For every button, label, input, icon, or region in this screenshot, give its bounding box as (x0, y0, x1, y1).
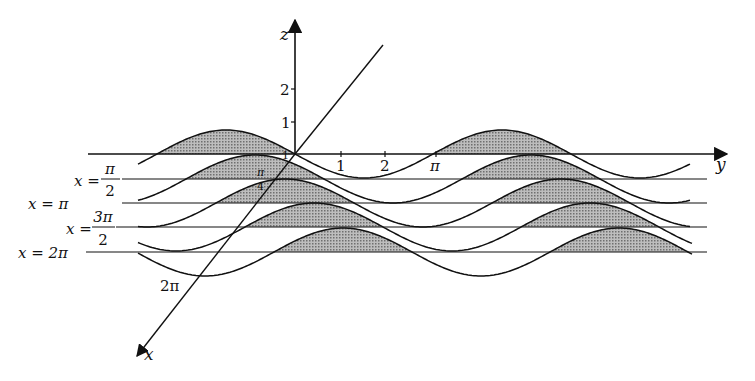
shaded-hump (521, 203, 659, 227)
y-tick-label-pi: π (429, 157, 441, 175)
sine-surface-diagram: y z 2 1 x 2π 1 2 π 1 π 4 x = π 2 x = π x… (0, 0, 755, 381)
x-axis (137, 154, 295, 356)
y-tick-label-2: 2 (380, 157, 390, 175)
origin-mark-4: 4 (257, 180, 264, 193)
svg-text:2: 2 (105, 182, 115, 200)
shaded-hump (157, 130, 295, 154)
slice-label-2pi: x = 2π (18, 244, 69, 262)
svg-text:3π: 3π (93, 208, 114, 226)
svg-text:2: 2 (98, 231, 108, 249)
svg-text:x =: x = (74, 172, 100, 190)
shaded-hump (245, 203, 383, 227)
slice-label-pi: x = π (28, 195, 70, 213)
x-axis-back (295, 45, 383, 154)
slice-label-3pi-over-2: x = 3π 2 (66, 208, 115, 249)
svg-text:x =: x = (66, 220, 92, 238)
shaded-hump (492, 179, 630, 203)
slice-label-pi-over-2: x = π 2 (74, 160, 120, 200)
x-axis-label: x (144, 344, 154, 364)
svg-text:π: π (104, 160, 116, 178)
shaded-hump (433, 130, 571, 154)
origin-mark-pi: π (256, 166, 265, 179)
y-tick-label-1: 1 (336, 157, 346, 175)
origin-mark-1: 1 (282, 149, 289, 162)
shaded-hump (216, 179, 354, 203)
x-tick-label-2pi: 2π (160, 277, 180, 295)
z-tick-label-1: 1 (281, 114, 291, 132)
z-axis-label: z (279, 24, 290, 44)
z-tick-label-2: 2 (280, 81, 290, 99)
y-axis-label: y (715, 154, 726, 174)
